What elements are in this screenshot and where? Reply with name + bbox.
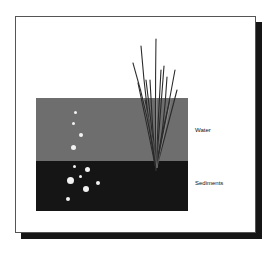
sediments-label: Sediments: [195, 180, 223, 186]
water-label: Water: [195, 127, 211, 133]
grass-plant-icon: [0, 0, 270, 253]
